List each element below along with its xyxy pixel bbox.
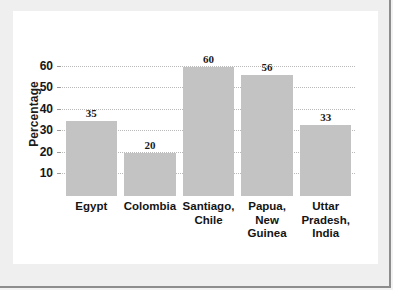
y-tick-label-30: 30 [40,123,53,137]
bar-value-label: 20 [121,139,180,151]
y-tick-mark-50 [57,87,61,88]
x-axis-label-line: Papua, [238,200,297,214]
x-axis-label-line: New [238,214,297,228]
x-axis-label-line: Santiago, [179,200,238,214]
x-axis-label-line: Chile [179,214,238,228]
bar-series: 3520605633 [62,56,355,196]
y-tick-mark-40 [57,109,61,110]
page-right-margin [393,0,408,299]
x-axis-label-line: India [296,227,355,241]
y-tick-mark-10 [57,173,61,174]
x-axis-label: Colombia [121,200,180,214]
chart-page: Percentage 102030405060 3520605633 Egypt… [0,0,408,299]
y-tick-label-10: 10 [40,166,53,180]
bar-slot: 56 [238,56,297,196]
y-tick-label-40: 40 [40,102,53,116]
bar[interactable] [124,153,176,196]
x-axis-label: Papua,NewGuinea [238,200,297,241]
x-axis-label-line: Guinea [238,227,297,241]
bar-value-label: 56 [238,61,297,73]
x-axis-label-line: Egypt [62,200,121,214]
bar[interactable] [183,67,235,196]
bar[interactable] [241,75,293,196]
x-axis-label: UttarPradesh,India [296,200,355,241]
x-axis-label-line: Colombia [121,200,180,214]
page-bottom-margin [0,290,408,299]
bar-slot: 33 [296,56,355,196]
x-axis-label-line: Pradesh, [296,214,355,228]
bar-chart: Percentage 102030405060 3520605633 Egypt… [13,11,378,264]
x-axis-label-line: Uttar [296,200,355,214]
bar-value-label: 35 [62,107,121,119]
y-tick-mark-30 [57,130,61,131]
x-axis-labels: EgyptColombiaSantiago,ChilePapua,NewGuin… [62,200,355,262]
chart-card: Percentage 102030405060 3520605633 Egypt… [13,11,378,264]
bar-slot: 20 [121,56,180,196]
bar-value-label: 33 [296,111,355,123]
plot-area: 102030405060 3520605633 [62,56,355,196]
bar-slot: 60 [179,56,238,196]
y-tick-mark-20 [57,152,61,153]
bar[interactable] [300,125,352,196]
y-tick-label-60: 60 [40,59,53,73]
bar-slot: 35 [62,56,121,196]
y-tick-mark-60 [57,66,61,67]
x-axis-label: Santiago,Chile [179,200,238,227]
y-tick-label-50: 50 [40,80,53,94]
bar[interactable] [66,121,118,196]
bar-value-label: 60 [179,53,238,65]
x-axis-label: Egypt [62,200,121,214]
y-tick-label-20: 20 [40,145,53,159]
